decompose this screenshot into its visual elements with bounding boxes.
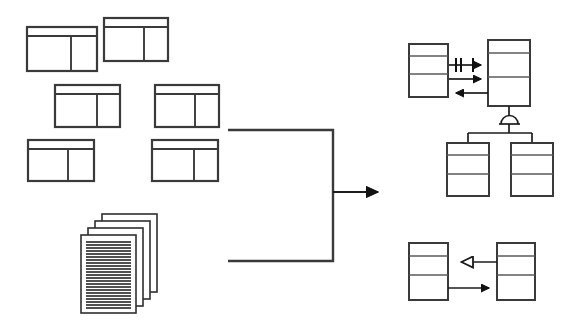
class-box-a[interactable] — [409, 44, 448, 97]
class-box-d[interactable] — [511, 143, 553, 196]
transformation-connector — [228, 130, 378, 261]
source-tables-group — [27, 18, 219, 181]
class-box-f[interactable] — [497, 243, 535, 300]
uml-bottom-group — [409, 243, 535, 300]
table-icon-6[interactable] — [152, 140, 218, 181]
uml-top-group — [409, 40, 553, 196]
generalization-arc[interactable] — [468, 106, 532, 143]
document-stack[interactable] — [81, 214, 157, 313]
table-icon-4[interactable] — [155, 85, 219, 127]
diagram-svg — [0, 0, 585, 333]
table-icon-1[interactable] — [27, 27, 97, 71]
table-icon-3[interactable] — [55, 85, 120, 127]
class-box-e[interactable] — [409, 243, 448, 300]
class-box-b[interactable] — [488, 40, 530, 106]
association-multiplicity[interactable] — [449, 58, 481, 72]
diagram-canvas: Relational schema and documents transfor… — [0, 0, 585, 333]
table-icon-2[interactable] — [104, 18, 168, 61]
class-box-c[interactable] — [447, 143, 489, 196]
table-icon-5[interactable] — [28, 140, 94, 181]
